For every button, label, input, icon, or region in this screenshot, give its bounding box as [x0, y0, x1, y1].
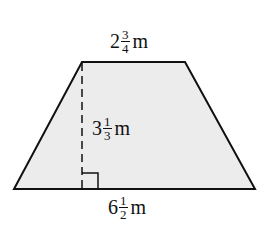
bottom-base-fraction: 1 2: [119, 194, 128, 221]
top-base-whole: 2: [110, 30, 120, 53]
bottom-base-unit: m: [131, 196, 147, 219]
top-base-numerator: 3: [121, 28, 130, 42]
bottom-base-numerator: 1: [119, 194, 128, 208]
height-label: 3 1 3 m: [92, 115, 130, 142]
bottom-base-denominator: 2: [120, 208, 127, 221]
bottom-base-label: 6 1 2 m: [108, 194, 146, 221]
top-base-fraction: 3 4: [121, 28, 130, 55]
height-whole: 3: [92, 117, 102, 140]
height-unit: m: [115, 117, 131, 140]
height-numerator: 1: [103, 115, 112, 129]
top-base-unit: m: [133, 30, 149, 53]
bottom-base-whole: 6: [108, 196, 118, 219]
top-base-denominator: 4: [122, 42, 129, 55]
height-fraction: 1 3: [103, 115, 112, 142]
trapezoid-shape: [14, 62, 255, 189]
height-denominator: 3: [104, 129, 111, 142]
top-base-label: 2 3 4 m: [110, 28, 148, 55]
